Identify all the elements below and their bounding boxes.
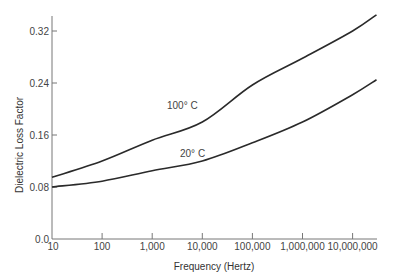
dielectric-loss-chart: 0.00.080.160.240.32 101001,00010,000100,… xyxy=(0,0,393,277)
curve-label-20c: 20° C xyxy=(180,148,205,159)
curves xyxy=(52,15,377,187)
y-tick-label: 0.08 xyxy=(30,182,50,193)
x-tick-label: 10,000 xyxy=(187,241,218,252)
y-ticks: 0.00.080.160.240.32 xyxy=(30,26,57,245)
y-tick-label: 0.16 xyxy=(30,130,50,141)
curve-20c xyxy=(52,80,377,187)
x-tick-label: 100,000 xyxy=(234,241,271,252)
x-ticks: 101001,00010,000100,0001,000,00010,000,0… xyxy=(47,233,378,252)
y-axis-title: Dielectric Loss Factor xyxy=(14,96,25,193)
x-tick-label: 10,000,000 xyxy=(328,241,378,252)
x-tick-label: 10 xyxy=(47,241,59,252)
axes xyxy=(52,16,377,239)
y-tick-label: 0.32 xyxy=(30,26,50,37)
x-tick-label: 1,000,000 xyxy=(280,241,325,252)
x-tick-label: 100 xyxy=(94,241,111,252)
curve-100c xyxy=(52,15,377,178)
x-tick-label: 1,000 xyxy=(140,241,165,252)
y-tick-label: 0.24 xyxy=(30,78,50,89)
curve-label-100c: 100° C xyxy=(167,100,198,111)
x-axis-title: Frequency (Hertz) xyxy=(174,261,255,272)
